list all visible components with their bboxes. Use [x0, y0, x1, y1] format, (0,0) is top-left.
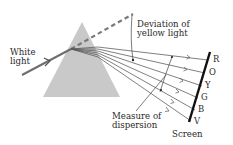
prism — [43, 22, 120, 97]
spectrum-label-orange: O — [209, 67, 216, 77]
spectrum-label-green: G — [201, 92, 208, 102]
spectrum-label-red: R — [213, 54, 219, 64]
deviation-label: Deviation of yellow light — [137, 20, 190, 39]
spectrum-label-yellow: Y — [205, 80, 211, 90]
deviation-arc — [131, 15, 133, 60]
screen-label: Screen — [172, 130, 203, 139]
white-light-label: White light — [10, 48, 36, 67]
deviation-label-line2: yellow light — [137, 29, 190, 38]
dispersion-arc — [160, 57, 172, 92]
dispersion-label-line2: dispersion — [112, 121, 161, 130]
dispersion-pointer — [136, 75, 166, 111]
spectrum-label-blue: B — [198, 104, 204, 114]
ray-arrows — [165, 55, 190, 112]
dispersion-label: Measure of dispersion — [112, 112, 161, 131]
spectrum-label-violet: V — [194, 116, 200, 126]
white-light-label-line2: light — [10, 57, 36, 66]
